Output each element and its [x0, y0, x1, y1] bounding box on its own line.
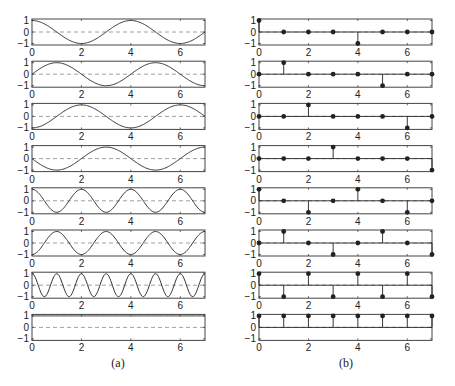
x-tick-label: 4 — [355, 258, 361, 269]
stem-marker — [380, 114, 385, 119]
x-tick-label: 4 — [128, 300, 134, 311]
stem-marker — [331, 72, 336, 77]
y-tick-label: −1 — [18, 80, 30, 91]
y-tick-label: 1 — [23, 310, 29, 321]
x-tick-label: 2 — [79, 300, 85, 311]
subplot-axes: 0246−101 — [245, 142, 432, 185]
panel-b-stem-plots: 0246−1010246−1010246−1010246−1010246−101… — [245, 15, 435, 353]
stem-marker — [380, 314, 385, 319]
stem-marker — [281, 229, 286, 234]
x-tick-label: 6 — [178, 131, 184, 142]
x-tick-label: 4 — [355, 342, 361, 353]
x-tick-label: 2 — [306, 89, 312, 100]
stem-marker — [380, 229, 385, 234]
stem-marker — [257, 241, 262, 246]
subplot-b-row1: 0246−101 — [245, 15, 435, 58]
y-tick-label: 0 — [250, 69, 256, 80]
x-tick-label: 2 — [79, 216, 85, 227]
stem-marker — [331, 252, 336, 257]
stem-marker — [430, 294, 435, 299]
stem-marker — [380, 30, 385, 35]
x-tick-label: 2 — [79, 89, 85, 100]
y-tick-label: −1 — [245, 38, 257, 49]
x-tick-label: 6 — [405, 47, 411, 58]
y-tick-label: −1 — [18, 207, 30, 218]
stem-marker — [331, 145, 336, 150]
y-tick-label: 1 — [23, 226, 29, 237]
stem-marker — [281, 60, 286, 65]
stem-marker — [281, 314, 286, 319]
stem-marker — [331, 30, 336, 35]
stem-marker — [306, 210, 311, 215]
x-tick-label: 4 — [355, 300, 361, 311]
subplot-axes: 0246−101 — [18, 226, 205, 269]
x-tick-label: 2 — [306, 47, 312, 58]
x-tick-label: 2 — [79, 131, 85, 142]
y-tick-label: −1 — [18, 38, 30, 49]
y-tick-label: 1 — [250, 310, 256, 321]
stem-marker — [430, 252, 435, 257]
y-tick-label: 1 — [23, 99, 29, 110]
stem-marker — [331, 114, 336, 119]
subplot-axes: 0246−101 — [245, 226, 432, 269]
y-tick-label: 1 — [250, 142, 256, 153]
stem-marker — [405, 72, 410, 77]
stem-marker — [430, 72, 435, 77]
x-tick-label: 0 — [256, 89, 262, 100]
stem-marker — [355, 241, 360, 246]
stem-marker — [355, 114, 360, 119]
stem-marker — [380, 83, 385, 88]
x-tick-label: 6 — [405, 89, 411, 100]
y-tick-label: −1 — [245, 249, 257, 260]
stem-marker — [405, 156, 410, 161]
y-tick-label: −1 — [245, 291, 257, 302]
x-tick-label: 6 — [405, 342, 411, 353]
stem-marker — [331, 294, 336, 299]
y-tick-label: 0 — [250, 27, 256, 38]
stem-marker — [257, 187, 262, 192]
x-tick-label: 6 — [178, 342, 184, 353]
y-tick-label: 0 — [23, 69, 29, 80]
stem-marker — [331, 198, 336, 203]
y-tick-label: 0 — [23, 195, 29, 206]
y-tick-label: 0 — [23, 322, 29, 333]
stem-marker — [355, 72, 360, 77]
subplot-b-row7: 0246−101 — [245, 268, 435, 311]
subplot-axes: 0246−101 — [245, 15, 432, 58]
stem-marker — [257, 72, 262, 77]
stem-marker — [380, 198, 385, 203]
y-tick-label: −1 — [245, 165, 257, 176]
subplot-axes: 0246−101 — [18, 268, 205, 311]
stem-marker — [430, 114, 435, 119]
stem-marker — [355, 271, 360, 276]
x-tick-label: 0 — [29, 300, 35, 311]
figure: 0246−1010246−1010246−1010246−1010246−101… — [0, 0, 455, 386]
y-tick-label: −1 — [18, 122, 30, 133]
y-tick-label: −1 — [245, 122, 257, 133]
x-tick-label: 6 — [405, 174, 411, 185]
panel-a-continuous-cosines: 0246−1010246−1010246−1010246−1010246−101… — [18, 15, 205, 353]
x-tick-label: 4 — [128, 131, 134, 142]
x-tick-label: 4 — [128, 89, 134, 100]
x-tick-label: 0 — [256, 174, 262, 185]
y-tick-label: −1 — [18, 249, 30, 260]
x-tick-label: 0 — [29, 47, 35, 58]
x-tick-label: 2 — [306, 174, 312, 185]
stem-marker — [306, 72, 311, 77]
subplot-a-row-7: 0246−101 — [18, 268, 205, 311]
stem-marker — [405, 314, 410, 319]
subplot-axes: 0246−101 — [245, 99, 432, 142]
y-tick-label: −1 — [18, 333, 30, 344]
y-tick-label: 1 — [250, 99, 256, 110]
stem-marker — [306, 241, 311, 246]
y-tick-label: −1 — [18, 165, 30, 176]
x-tick-label: 0 — [29, 258, 35, 269]
stem-marker — [355, 314, 360, 319]
subplot-b-row3: 0246−101 — [245, 99, 435, 142]
y-tick-label: 0 — [250, 153, 256, 164]
x-tick-label: 0 — [256, 216, 262, 227]
x-tick-label: 0 — [256, 300, 262, 311]
y-tick-label: 0 — [23, 27, 29, 38]
stem-marker — [405, 30, 410, 35]
stem-marker — [405, 241, 410, 246]
